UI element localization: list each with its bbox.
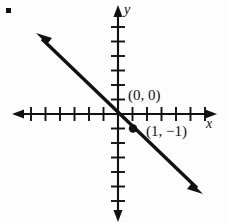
point-marker-1-neg1 [129,124,137,132]
y-axis-up-arrowhead [114,5,123,17]
origin-point-label: (0, 0) [128,88,161,103]
coordinate-plane-graphic [0,0,229,223]
y-axis-down-arrowhead [114,210,123,222]
second-point-label: (1, −1) [146,124,187,139]
x-axis-left-arrowhead [12,110,24,119]
graph-figure: (0, 0) (1, −1) y x [0,0,229,223]
y-axis-label: y [124,3,130,17]
x-axis-label: x [206,117,212,131]
